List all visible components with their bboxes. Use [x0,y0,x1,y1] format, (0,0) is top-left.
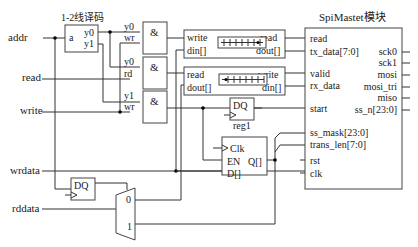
dff-bottom-dq-label: DQ [74,180,89,191]
fifo-rx-dout-port: dout[] [187,82,211,93]
spi-master-block-diagram: addr read write wrdata rddata 1-2线译码 a y… [0,0,418,247]
spi-title: SpiMastet模块 [319,11,386,23]
reg2-d-label: D[] [227,168,241,179]
junction-reg2-q [273,158,277,162]
and-gate-1-symbol: & [150,61,159,73]
spi-port-read: read [310,33,327,44]
input-addr-label: addr [8,31,28,43]
spi-port-rst: rst [310,155,320,166]
spi-right-port-stubs [402,52,410,110]
spi-port-start: start [310,103,327,114]
spi-port-rx-data: rx_data [310,80,341,91]
spi-port-ss-mask: ss_mask[23:0] [310,127,368,138]
junction-y0 [108,30,112,34]
spi-port-trans-len: trans_len[7:0] [310,139,366,150]
spi-port-tx-data: tx_data[7:0] [310,46,359,57]
and0-in-wr: wr [124,32,135,43]
fifo-rx-read-port: read [187,69,204,80]
junction-addr [53,36,57,40]
spi-port-sck0: sck0 [379,46,397,57]
reg2-en-label: EN [227,156,240,167]
spi-port-mosi-tri: mosi_tri [364,81,398,92]
spi-port-clk: clk [310,168,322,179]
input-rddata-label: rddata [12,202,40,214]
input-wrdata-label: wrdata [10,164,40,176]
and2-in-y1: y1 [124,90,134,101]
decoder-title: 1-2线译码 [61,11,104,23]
reg2-clk-label: Clk [230,143,244,154]
and2-in-wr: wr [124,101,135,112]
and0-in-y0: y0 [124,21,134,32]
decoder-output-y1: y1 [84,38,94,49]
junction-write [118,110,122,114]
and-gate-2-symbol: & [150,95,159,107]
input-write-label: write [20,104,43,116]
mux-in1-label: 1 [127,221,132,232]
and-gate-0-symbol: & [150,26,159,38]
reg1-dq-label: DQ [233,100,248,111]
and1-in-rd: rd [124,68,132,79]
fifo-rx-buffer-icon [219,74,267,85]
spi-port-sck1: sck1 [379,57,397,68]
reg1-name: reg1 [233,120,251,131]
mux-in0-label: 0 [126,194,131,205]
decoder-input-a: a [69,32,74,43]
input-read-label: read [22,71,41,83]
fifo-tx-write-port: write [187,32,208,43]
spi-port-ss-n: ss_n[23:0] [355,104,397,115]
junction-start [201,106,205,110]
spi-port-mosi: mosi [378,69,398,80]
reg2-output-wires [135,133,305,224]
and1-in-y0: y0 [124,56,134,67]
fifo-spi-wires [285,38,305,86]
reg2-q-label: Q[] [248,156,262,167]
spi-port-miso: miso [378,92,397,103]
fifo-tx-buffer-icon [218,37,266,48]
decoder-output-y0: y0 [84,27,94,38]
spi-port-valid: valid [310,68,330,79]
fifo-tx-din-port: din[] [187,45,206,56]
